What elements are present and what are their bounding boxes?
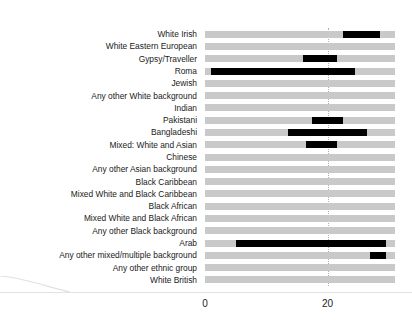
plot-area: [205, 28, 395, 286]
bar-background: [205, 117, 395, 124]
bar-background: [205, 43, 395, 50]
bar-background: [205, 276, 395, 283]
bar-value: [370, 252, 385, 259]
bar-background: [205, 252, 395, 259]
bar-value: [312, 117, 343, 124]
bar-value: [288, 129, 368, 136]
category-labels-column: White IrishWhite Eastern EuropeanGypsy/T…: [0, 28, 201, 286]
bar-background: [205, 92, 395, 99]
category-label: Black Caribbean: [136, 177, 197, 187]
bar-background: [205, 55, 395, 62]
bar-background: [205, 141, 395, 148]
category-label: White Irish: [157, 29, 197, 39]
bar-background: [205, 190, 395, 197]
bar-background: [205, 178, 395, 185]
bar-value: [211, 68, 355, 75]
bar-background: [205, 80, 395, 87]
bar-value: [236, 240, 386, 247]
category-label: Chinese: [166, 152, 197, 162]
x-tick-label: 20: [322, 298, 333, 309]
bar-background: [205, 215, 395, 222]
bar-background: [205, 154, 395, 161]
category-label: Pakistani: [163, 115, 197, 125]
bar-value: [343, 31, 380, 38]
category-label: Any other ethnic group: [113, 263, 197, 273]
category-label: Roma: [175, 66, 197, 76]
category-label: Any other White background: [91, 91, 197, 101]
bar-background: [205, 104, 395, 111]
category-label: Bangladeshi: [151, 127, 197, 137]
bar-value: [306, 141, 337, 148]
decorative-curve: [0, 276, 70, 294]
bar-background: [205, 264, 395, 271]
bar-background: [205, 227, 395, 234]
category-label: Gypsy/Traveller: [139, 54, 197, 64]
chart-container: White IrishWhite Eastern EuropeanGypsy/T…: [0, 0, 412, 332]
bar-value: [303, 55, 337, 62]
category-label: Mixed: White and Asian: [109, 140, 197, 150]
category-label: Any other Asian background: [92, 164, 197, 174]
category-label: White British: [150, 275, 197, 285]
bar-background: [205, 166, 395, 173]
category-label: Indian: [174, 103, 197, 113]
bar-background: [205, 203, 395, 210]
category-label: Black African: [149, 201, 197, 211]
category-label: White Eastern European: [106, 41, 197, 51]
category-label: Any other mixed/multiple background: [59, 250, 197, 260]
category-label: Any other Black background: [92, 226, 197, 236]
category-label: Mixed White and Black African: [84, 213, 197, 223]
category-label: Jewish: [171, 78, 197, 88]
x-tick-label: 0: [202, 298, 208, 309]
category-label: Mixed White and Black Caribbean: [71, 189, 197, 199]
category-label: Arab: [179, 238, 197, 248]
